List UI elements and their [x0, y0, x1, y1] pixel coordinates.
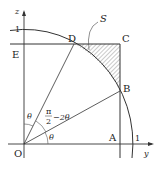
label-c: C: [122, 33, 130, 44]
angle-arc-bottom: [45, 132, 48, 144]
label-minus-2theta: −2θ: [53, 113, 70, 122]
z-axis-arrow: [22, 10, 26, 16]
label-a: A: [108, 132, 117, 143]
label-y-axis: y: [143, 149, 149, 158]
label-e: E: [12, 49, 19, 60]
label-z-axis: z: [14, 7, 20, 16]
angle-arc-mid: [36, 121, 46, 132]
label-pi: π: [46, 107, 51, 116]
label-z-one: 1: [15, 25, 20, 34]
label-y-one: 1: [135, 134, 140, 143]
label-s: S: [100, 13, 107, 24]
label-theta-bottom: θ: [49, 133, 54, 142]
y-axis-arrow: [148, 142, 154, 146]
label-d: D: [68, 33, 76, 44]
label-two: 2: [46, 117, 51, 126]
ray-ob: [24, 91, 120, 144]
ray-od: [24, 44, 74, 144]
diagram-canvas: z 1 E D C S B A 1 y O θ θ π 2 −2θ: [0, 0, 160, 173]
label-b: B: [123, 83, 130, 94]
label-theta-top: θ: [27, 112, 32, 121]
region-s: [74, 44, 120, 91]
label-o: O: [14, 148, 22, 159]
angle-arc-top: [24, 124, 33, 126]
